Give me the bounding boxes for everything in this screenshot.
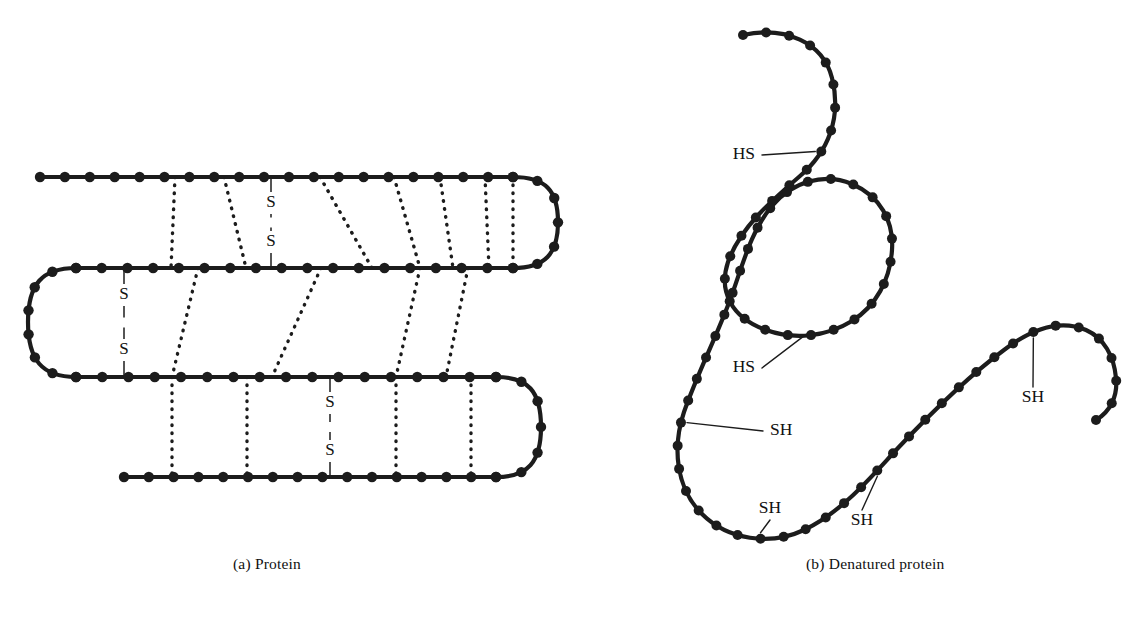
amino-acid-bead (35, 172, 45, 182)
amino-acid-bead (888, 448, 898, 458)
amino-acid-bead (806, 330, 816, 340)
amino-acid-bead (821, 58, 831, 68)
amino-acid-bead (1028, 327, 1038, 337)
amino-acid-bead (465, 372, 475, 382)
amino-acid-bead (148, 263, 158, 273)
amino-acid-bead (159, 172, 169, 182)
amino-acid-bead (483, 172, 493, 182)
hydrogen-bond (440, 177, 453, 268)
amino-acid-bead (740, 314, 750, 324)
amino-acid-bead (234, 172, 244, 182)
amino-acid-bead (209, 172, 219, 182)
amino-acid-bead (386, 372, 396, 382)
amino-acid-bead (47, 267, 57, 277)
amino-acid-bead (168, 472, 178, 482)
amino-acid-bead (674, 464, 684, 474)
amino-acid-bead (868, 192, 878, 202)
amino-acid-bead (516, 377, 526, 387)
disulfide-sulfur-label: S (325, 440, 334, 459)
amino-acid-bead (725, 251, 735, 261)
thiol-label-group: HSHSSHSHSHSH (687, 143, 1045, 533)
amino-acid-bead (532, 259, 542, 269)
amino-acid-bead (733, 530, 743, 540)
amino-acid-bead (284, 172, 294, 182)
amino-acid-bead (532, 176, 542, 186)
thiol-leader-line (762, 152, 815, 155)
disulfide-sulfur-label: S (119, 339, 128, 358)
amino-acid-bead (259, 172, 269, 182)
amino-acid-bead (1111, 376, 1121, 386)
amino-acid-bead (830, 103, 840, 113)
denatured-protein-diagram-svg: HSHSSHSHSHSH (580, 0, 1124, 623)
amino-acid-bead (971, 367, 981, 377)
thiol-leader-line (762, 335, 805, 368)
amino-acid-bead (392, 472, 402, 482)
amino-acid-bead (549, 241, 559, 251)
amino-acid-bead (405, 263, 415, 273)
amino-acid-bead (292, 472, 302, 482)
amino-acid-bead (466, 472, 476, 482)
amino-acid-bead (1091, 415, 1101, 425)
protein-denaturation-figure: SSSSSS HSHSSHSHSHSH (a) Protein (b) Dena… (0, 0, 1124, 623)
amino-acid-bead (536, 422, 546, 432)
amino-acid-bead (765, 203, 775, 213)
amino-acid-bead (761, 28, 771, 38)
amino-acid-bead (30, 352, 40, 362)
thiol-leader-line (687, 423, 763, 431)
amino-acid-bead (1008, 338, 1018, 348)
amino-acid-bead (821, 512, 831, 522)
amino-acid-bead (549, 193, 559, 203)
hydrogen-bond (485, 177, 489, 268)
amino-acid-bead (342, 472, 352, 482)
hydrogen-bond (446, 268, 468, 377)
amino-acid-bead (30, 282, 40, 292)
thiol-label: HS (733, 143, 755, 163)
amino-acid-bead (119, 472, 129, 482)
amino-acid-bead (881, 211, 891, 221)
amino-acid-bead (225, 263, 235, 273)
amino-acid-bead (307, 372, 317, 382)
hydrogen-bond (320, 177, 372, 268)
amino-acid-bead (383, 172, 393, 182)
amino-acid-bead (441, 472, 451, 482)
amino-acid-bead (360, 372, 370, 382)
amino-acid-bead (826, 174, 836, 184)
amino-acid-bead (367, 472, 377, 482)
amino-acid-bead (673, 441, 683, 451)
amino-acid-bead (508, 263, 518, 273)
amino-acid-bead (886, 257, 896, 267)
amino-acid-bead (532, 447, 542, 457)
amino-acid-bead (867, 299, 877, 309)
hydrogen-bond (224, 177, 246, 268)
amino-acid-bead (1094, 334, 1104, 344)
amino-acid-bead (728, 288, 738, 298)
amino-acid-bead (676, 418, 686, 428)
amino-acid-bead (760, 325, 770, 335)
thiol-label: SH (1022, 386, 1045, 406)
amino-acid-bead (193, 472, 203, 482)
amino-acid-bead (333, 372, 343, 382)
amino-acid-bead (243, 472, 253, 482)
amino-acid-bead (954, 382, 964, 392)
amino-acid-bead (751, 213, 761, 223)
amino-acid-bead (872, 465, 882, 475)
amino-acid-bead (71, 263, 81, 273)
amino-acid-bead (720, 274, 730, 284)
amino-acid-bead (276, 263, 286, 273)
amino-acid-bead (738, 30, 748, 40)
backbone-turn-right-bottom (496, 377, 541, 477)
thiol-label: SH (759, 497, 782, 517)
amino-acid-bead (144, 472, 154, 482)
hydrogen-bond (394, 177, 420, 268)
amino-acid-bead (701, 352, 711, 362)
amino-acid-bead (779, 532, 789, 542)
amino-acid-bead (218, 472, 228, 482)
disulfide-sulfur-label: S (325, 392, 334, 411)
panel-denatured-protein: HSHSSHSHSHSH (580, 0, 1124, 623)
amino-acid-bead (743, 244, 753, 254)
amino-acid-bead (694, 505, 704, 515)
amino-acid-bead (920, 415, 930, 425)
amino-acid-bead (719, 310, 729, 320)
amino-acid-bead (856, 482, 866, 492)
amino-acid-bead (255, 372, 265, 382)
